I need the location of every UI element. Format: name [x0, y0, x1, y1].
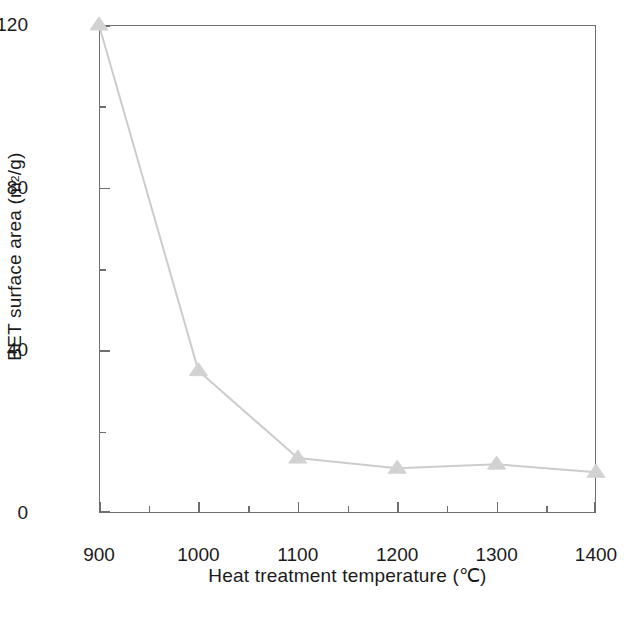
- y-tick-label-0: 0: [17, 502, 37, 524]
- x-axis-title: Heat treatment temperature (℃): [99, 564, 596, 587]
- data-point-marker: [90, 17, 108, 30]
- y-axis-title-prefix: BET surface area (m: [4, 182, 26, 361]
- y-axis-title: BET surface area (m2/g): [0, 0, 30, 513]
- series-line-bet-surface-area: [99, 25, 596, 472]
- y-tick-label-40: 40: [7, 339, 37, 361]
- x-tick-label-900: 900: [83, 544, 115, 566]
- y-tick-label-80: 80: [7, 177, 37, 199]
- y-tick-label-120: 120: [0, 14, 37, 36]
- x-tick-label-1100: 1100: [277, 544, 318, 566]
- chart-figure: BET surface area (m2/g) 120 80 40 0: [0, 0, 638, 620]
- series-markers-group: [90, 17, 605, 477]
- x-tick-label-1000: 1000: [177, 544, 219, 566]
- x-tick-label-1400: 1400: [575, 544, 617, 566]
- x-tick-label-1300: 1300: [475, 544, 517, 566]
- data-point-marker: [587, 464, 605, 477]
- data-point-marker: [189, 363, 207, 376]
- x-tick-label-1200: 1200: [376, 544, 418, 566]
- y-axis-title-suffix: /g): [4, 152, 26, 175]
- plot-area: 900 1000 1100 1200 1300 1400: [99, 25, 596, 513]
- data-point-marker: [488, 456, 506, 469]
- data-series-layer: [85, 11, 610, 527]
